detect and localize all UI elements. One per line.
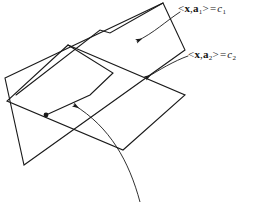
hyperplane-1-label: <x,a1>=c1 — [178, 3, 226, 14]
leader-to-intersection-line — [74, 105, 140, 202]
diagram-canvas — [0, 0, 257, 202]
vector-a: a — [203, 48, 209, 60]
vector-a: a — [193, 2, 199, 14]
constant-c-subscript: 1 — [222, 8, 226, 16]
horizontal-plane — [7, 45, 185, 150]
vector-a-subscript: 2 — [209, 54, 213, 62]
bracket-close: > — [202, 2, 208, 14]
leader-to-horizontal-plane — [146, 56, 188, 78]
intersection-point — [44, 113, 49, 118]
constant-c-subscript: 2 — [232, 54, 236, 62]
hyperplane-diagram: <x,a1>=c1 <x,a2>=c2 — [0, 0, 257, 202]
vector-a-subscript: 1 — [199, 8, 203, 16]
equals-sign: = — [220, 48, 226, 60]
equals-sign: = — [210, 2, 216, 14]
bracket-close: > — [212, 48, 218, 60]
hyperplane-2-label: <x,a2>=c2 — [188, 49, 236, 60]
